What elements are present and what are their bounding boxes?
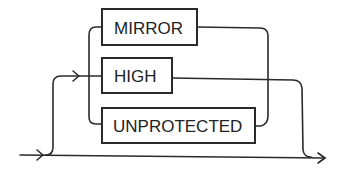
option-unprotected: UNPROTECTED	[102, 108, 255, 143]
railroad-diagram: MIRROR HIGH UNPROTECTED	[0, 0, 345, 178]
option-high: HIGH	[102, 58, 172, 93]
option-high-label: HIGH	[114, 67, 157, 86]
option-mirror: MIRROR	[102, 9, 197, 45]
option-mirror-label: MIRROR	[114, 19, 183, 38]
option-unprotected-label: UNPROTECTED	[113, 117, 242, 136]
loop-into-choice	[46, 76, 102, 155]
main-line	[20, 155, 325, 158]
